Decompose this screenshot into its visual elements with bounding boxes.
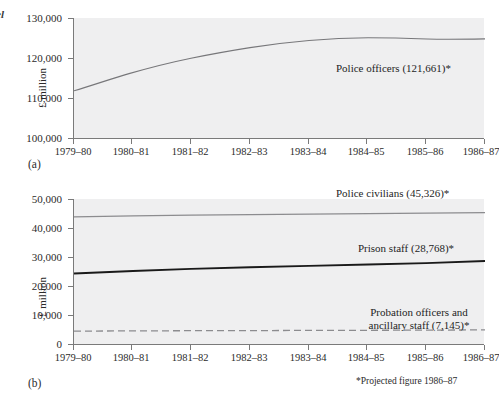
panel-b-ytick-0: 0: [0, 338, 62, 350]
panel-b-xtick-label-7: 1986–87: [463, 352, 499, 363]
panel-b-ytick-10000: 10,000: [0, 309, 62, 321]
panel-a-ytick-130000: 130,000: [0, 12, 62, 24]
panel-b-ytick-40000: 40,000: [0, 222, 62, 234]
panel-b-xtick-mark-7: [484, 345, 485, 350]
panel-a-ytick-100000: 100,000: [0, 132, 62, 144]
panel-a-series-svg: [74, 18, 485, 139]
panel-b-xtick-label-0: 1979–80: [55, 352, 92, 363]
panel-a-xtick-mark-7: [484, 139, 485, 144]
panel-a-xtick-mark-6: [425, 139, 426, 144]
panel-a-xtick-label-1: 1980–81: [113, 146, 150, 157]
panel-a-xtick-mark-5: [366, 139, 367, 144]
panel-a-xtick-label-3: 1982–83: [231, 146, 268, 157]
panel-a-xtick-mark-4: [308, 139, 309, 144]
panel-b-xtick-label-4: 1983–84: [290, 352, 327, 363]
panel-b-series-label-probation-officers-line1: Probation officers and: [370, 306, 468, 319]
panel-b-xtick-mark-4: [308, 345, 309, 350]
chart-panel-a: £ million 130,000 120,000 110,000 100,00…: [0, 0, 489, 178]
panel-b-xtick-mark-6: [425, 345, 426, 350]
panel-b-xtick-label-3: 1982–83: [231, 352, 268, 363]
panel-b-xtick-mark-2: [190, 345, 191, 350]
panel-b-ytick-50000: 50,000: [0, 193, 62, 205]
panel-b-xtick-label-1: 1980–81: [113, 352, 150, 363]
panel-b-series-label-prison-staff: Prison staff (28,768)*: [358, 242, 454, 255]
panel-b-xtick-mark-1: [131, 345, 132, 350]
panel-b-ytick-20000: 20,000: [0, 280, 62, 292]
panel-a-plot-area: [73, 18, 484, 139]
panel-a-xtick-label-2: 1981–82: [172, 146, 209, 157]
panel-a-ytick-110000: 110,000: [0, 92, 62, 104]
panel-a-xtick-label-0: 1979–80: [55, 146, 92, 157]
panel-b-letter: (b): [28, 377, 41, 389]
panel-a-letter: (a): [28, 158, 41, 170]
panel-b-ytick-30000: 30,000: [0, 251, 62, 263]
panel-a-xtick-label-7: 1986–87: [463, 146, 499, 157]
panel-b-series-label-police-civilians: Police civilians (45,326)*: [336, 187, 449, 200]
series-line-police-civilians: [74, 213, 485, 217]
chart-panel-b: £ million 50,000 40,000 30,000 20,000 10…: [0, 185, 489, 415]
panel-b-xtick-mark-0: [73, 345, 74, 350]
panel-a-xtick-label-5: 1984–85: [348, 146, 385, 157]
figure-footnote: *Projected figure 1986–87: [356, 376, 457, 386]
panel-b-xtick-label-2: 1981–82: [172, 352, 209, 363]
panel-b-xtick-mark-5: [366, 345, 367, 350]
panel-a-xtick-mark-1: [131, 139, 132, 144]
panel-a-xtick-mark-0: [73, 139, 74, 144]
panel-a-series-label-police-officers: Police officers (121,661)*: [336, 62, 451, 75]
panel-b-xtick-label-6: 1985–86: [407, 352, 444, 363]
panel-a-xtick-mark-2: [190, 139, 191, 144]
series-line-prison-staff: [74, 261, 485, 274]
panel-a-xtick-label-4: 1983–84: [290, 146, 327, 157]
panel-b-series-label-probation-officers-line2: ancillary staff (7,145)*: [369, 319, 470, 332]
panel-a-xtick-label-6: 1985–86: [407, 146, 444, 157]
panel-a-ytick-120000: 120,000: [0, 52, 62, 64]
panel-b-xtick-label-5: 1984–85: [348, 352, 385, 363]
panel-b-xtick-mark-3: [249, 345, 250, 350]
panel-a-xtick-mark-3: [249, 139, 250, 144]
